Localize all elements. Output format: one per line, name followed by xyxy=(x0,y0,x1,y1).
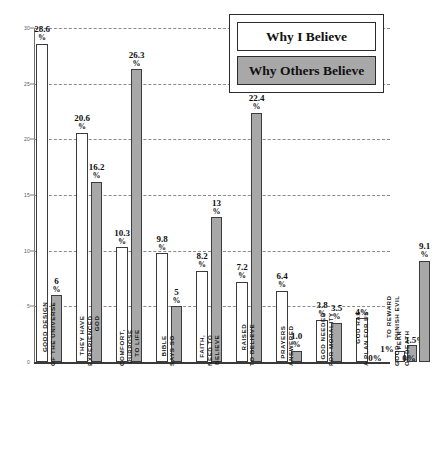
bar-label-others-8: 0% xyxy=(368,354,382,363)
bar-group-3: 9.8% 5% xyxy=(154,28,186,362)
bar-label-others-10: 9.1% xyxy=(419,242,430,259)
legend-item-why-others-believe[interactable]: Why Others Believe xyxy=(237,56,376,85)
bar-group-10: 9.1% 0% xyxy=(422,28,435,362)
cat-label-2: COMFORT,PURPOSETO LIFE xyxy=(118,329,141,366)
bar-label-self-2: 10.3% xyxy=(114,229,130,246)
bar-label-others-1: 16.2% xyxy=(89,163,105,180)
bar-others-10[interactable] xyxy=(419,261,430,362)
bar-group-4: 8.2% 13% xyxy=(194,28,226,362)
bar-group-1: 20.6% 16.2% xyxy=(74,28,106,362)
bar-label-others-0: 6% xyxy=(53,277,61,294)
chart-legend: Why I Believe Why Others Believe xyxy=(229,14,384,93)
y-tick-5: 5 xyxy=(0,303,30,309)
legend-label-why-others-believe: Why Others Believe xyxy=(249,63,364,79)
y-tick-10: 10 xyxy=(0,248,30,254)
y-tick-20: 20 xyxy=(0,136,30,142)
bar-label-others-5: 22.4% xyxy=(249,94,265,111)
cat-label-10: FEAROF DEATH xyxy=(395,330,410,366)
y-tick-25: 25 xyxy=(0,81,30,87)
bar-label-others-3: 5% xyxy=(173,288,181,305)
cat-label-4: FAITH,NEED TOBELIEVE xyxy=(198,335,221,366)
bar-label-self-6: 6.4% xyxy=(276,272,287,289)
bar-label-self-3: 9.8% xyxy=(156,235,167,252)
bar-label-others-2: 26.3% xyxy=(129,51,145,68)
cat-label-3: BIBLESAYS SO xyxy=(160,335,175,366)
y-tick-0: 0 xyxy=(0,359,30,365)
legend-item-why-i-believe[interactable]: Why I Believe xyxy=(237,22,376,51)
cat-label-0: GOOD DESIGNOF THE UNIVERSE xyxy=(41,302,56,366)
cat-label-1: THEY HAVEEXPERIENCEDGOD xyxy=(78,316,101,366)
bar-label-self-1: 20.6% xyxy=(74,114,90,131)
cat-label-8: GOD HASA PLAN FOR US xyxy=(354,311,369,366)
cat-label-6: PRAYERSANSWERED xyxy=(279,326,294,367)
y-tick-30: 30 xyxy=(0,25,30,31)
y-tick-15: 15 xyxy=(0,192,30,198)
cat-label-7: GOD NEEDEDFOR MORALITY xyxy=(319,312,334,366)
cat-label-5: RAISEDTO BELIEVE xyxy=(240,324,255,366)
bar-label-others-4: 13% xyxy=(212,199,221,216)
bar-label-self-5: 7.2% xyxy=(236,263,247,280)
bar-group-2: 10.3% 26.3% xyxy=(114,28,146,362)
bar-label-self-4: 8.2% xyxy=(196,252,207,269)
bar-label-self-0: 28.6% xyxy=(34,25,50,42)
legend-label-why-i-believe: Why I Believe xyxy=(266,29,347,45)
bar-others-2[interactable] xyxy=(131,69,142,362)
